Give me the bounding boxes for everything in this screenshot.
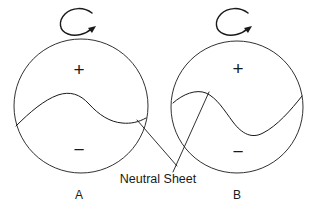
polarity-positive-symbol: + [73,59,84,80]
polarity-positive-symbol: + [232,58,243,79]
polarity-negative-symbol: − [73,139,84,160]
panel-label-b: B [233,188,241,202]
neutral-sheet-diagram: + − A + − B Neu [0,0,313,211]
rotation-arrow-icon [60,9,96,36]
rotation-arrow-icon [216,9,252,36]
figure-container: + − A + − B Neu [0,0,313,211]
neutral-sheet-curve [16,93,146,126]
panel-label-a: A [75,188,83,202]
leader-line [137,120,177,166]
polarity-negative-symbol: − [232,141,243,162]
neutral-sheet-annotation: Neutral Sheet [120,172,197,186]
leader-line [173,92,209,172]
